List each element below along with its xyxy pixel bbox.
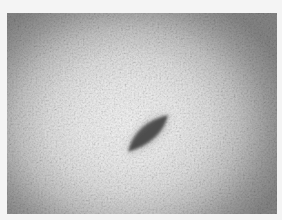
spindle-object (7, 13, 277, 214)
photograph (7, 13, 277, 214)
